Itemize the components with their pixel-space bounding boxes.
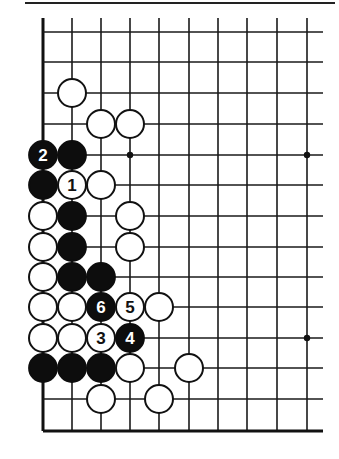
black-stone-move-6: 6 [87,293,115,321]
white-stone [29,233,57,261]
white-stone-disc [29,202,57,230]
white-stone [116,110,144,138]
white-stone [175,354,203,382]
white-stone-disc [145,293,173,321]
white-stone [87,385,115,413]
black-stone-disc [29,354,57,382]
black-stone [87,263,115,291]
white-stone-disc [87,110,115,138]
white-stone [87,171,115,199]
white-stone-disc [87,385,115,413]
black-stone-disc [58,263,86,291]
go-board-diagram: 216534 [0,0,339,459]
white-stone-disc [29,293,57,321]
white-stone [58,293,86,321]
black-stone [29,354,57,382]
black-stone-move-2: 2 [29,141,57,169]
move-number-label: 4 [125,329,135,348]
white-stone-disc [145,385,173,413]
move-number-label: 1 [67,176,76,195]
white-stone [87,110,115,138]
move-number-label: 2 [38,146,47,165]
white-stone [58,79,86,107]
white-stone-move-3: 3 [87,324,115,352]
black-stone [58,202,86,230]
white-stone-disc [116,354,144,382]
black-stone [58,233,86,261]
move-number-label: 5 [125,298,134,317]
black-stone-disc [87,263,115,291]
white-stone-disc [58,324,86,352]
black-stone [87,354,115,382]
black-stone-disc [58,141,86,169]
white-stone-disc [29,324,57,352]
white-stone-disc [175,354,203,382]
white-stone [29,202,57,230]
star-point [304,335,310,341]
white-stone [116,354,144,382]
white-stone-disc [29,233,57,261]
black-stone [58,263,86,291]
black-stone-disc [58,233,86,261]
white-stone-disc [116,202,144,230]
black-stone-disc [58,354,86,382]
white-stone [29,293,57,321]
white-stone-move-5: 5 [116,293,144,321]
black-stone-move-4: 4 [116,324,144,352]
white-stone-disc [58,79,86,107]
white-stone [29,324,57,352]
star-point [127,152,133,158]
white-stone-disc [116,110,144,138]
move-number-label: 3 [96,329,105,348]
black-stone [58,354,86,382]
black-stone [58,141,86,169]
stones: 216534 [29,79,203,413]
black-stone-disc [29,171,57,199]
white-stone-move-1: 1 [58,171,86,199]
white-stone-disc [116,233,144,261]
black-stone-disc [87,354,115,382]
white-stone-disc [87,171,115,199]
white-stone [145,385,173,413]
white-stone [116,233,144,261]
white-stone [58,324,86,352]
white-stone [145,293,173,321]
black-stone-disc [58,202,86,230]
white-stone [116,202,144,230]
white-stone [29,263,57,291]
white-stone-disc [58,293,86,321]
black-stone [29,171,57,199]
white-stone-disc [29,263,57,291]
move-number-label: 6 [96,298,105,317]
star-point [304,152,310,158]
